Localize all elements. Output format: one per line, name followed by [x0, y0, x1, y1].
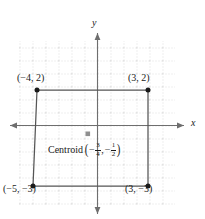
centroid-open-paren: (: [85, 142, 89, 157]
centroid-marker: [86, 132, 91, 137]
centroid-close-paren: ): [117, 142, 121, 157]
vertex-label-top-right: (3, 2): [128, 73, 150, 83]
x-axis-label: x: [191, 118, 195, 128]
y-axis-label: y: [92, 18, 96, 28]
vertex-label-bottom-right: (3, −3): [125, 184, 152, 194]
centroid-y-denominator: 2: [111, 150, 117, 158]
centroid-y-fraction: 1 2: [111, 142, 117, 158]
vertex-label-bottom-left: (−5, −3): [3, 184, 36, 194]
centroid-x-minus: −: [89, 144, 95, 155]
centroid-x-denominator: 4: [95, 150, 101, 158]
y-axis-arrow-up: [95, 33, 101, 40]
centroid-y-minus: −: [105, 144, 111, 155]
x-axis-arrow-right: [177, 123, 184, 129]
centroid-x-fraction: 3 4: [95, 142, 101, 158]
centroid-x-numerator: 3: [95, 142, 101, 149]
y-axis-arrow-down: [95, 207, 101, 214]
x-axis-arrow-left: [10, 123, 17, 129]
centroid-y-numerator: 1: [111, 142, 117, 149]
vertex-label-top-left: (−4, 2): [17, 73, 44, 83]
vertex-dot-top-right: [146, 88, 151, 93]
centroid-label: Centroid ( − 3 4 , − 1 2 ): [48, 142, 121, 158]
coordinate-plane-figure: (−4, 2) (3, 2) (3, −3) (−5, −3) y x Cent…: [0, 0, 205, 219]
centroid-word: Centroid: [48, 144, 83, 155]
centroid-comma: ,: [101, 144, 104, 155]
vertex-dot-top-left: [35, 88, 40, 93]
